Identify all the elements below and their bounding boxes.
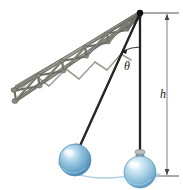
wrecking-ball-bottom [124, 150, 156, 188]
pivot-point [137, 10, 143, 16]
angle-label: θ [124, 60, 130, 72]
wrecking-ball-diagram: θ h [0, 0, 183, 190]
height-label: h [160, 88, 166, 100]
diagram-canvas [0, 0, 183, 190]
truss-top-chord [13, 13, 139, 91]
wrecking-ball-swung [59, 143, 91, 176]
